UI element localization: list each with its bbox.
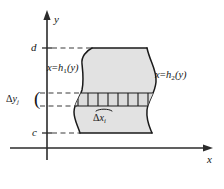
delta-x-subscript: i	[104, 117, 106, 124]
curve-label-h1: x=h1(y)	[47, 63, 79, 75]
delta-y-subscript: j	[17, 98, 19, 105]
x-axis-arrowhead	[203, 144, 213, 151]
figure-container: y x d c x=h1(y) x=h2(y) Δyj ( Δxi	[0, 0, 224, 189]
upper-bound-label-d: d	[31, 42, 37, 53]
delta-y-label: Δyj	[6, 94, 19, 106]
x-axis-label: x	[207, 154, 212, 165]
lower-bound-label-c: c	[32, 127, 37, 138]
h2-argument: (y)	[175, 69, 187, 80]
shaded-region	[74, 48, 156, 133]
h1-argument: (y)	[67, 62, 79, 73]
curve-label-h2: x=h2(y)	[155, 70, 187, 82]
delta-x-label: Δxi	[93, 113, 106, 125]
slice-band	[60, 93, 170, 106]
y-axis-label: y	[54, 14, 59, 25]
delta-y-brace: (	[34, 89, 40, 108]
y-axis-arrowhead	[43, 10, 50, 20]
